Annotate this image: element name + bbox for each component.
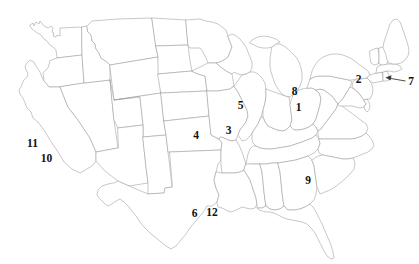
map-label-12[interactable]: 12 — [206, 207, 218, 219]
state-washington[interactable] — [30, 21, 82, 58]
state-arkansas[interactable] — [219, 137, 246, 173]
state-rhode-island[interactable] — [383, 71, 389, 81]
map-label-6[interactable]: 6 — [192, 208, 198, 220]
map-label-2[interactable]: 2 — [356, 74, 362, 86]
state-north-dakota[interactable] — [152, 18, 188, 46]
map-label-3[interactable]: 3 — [226, 125, 232, 137]
map-label-5[interactable]: 5 — [238, 100, 244, 112]
state-kansas[interactable] — [161, 91, 209, 121]
map-label-4[interactable]: 4 — [193, 130, 199, 142]
state-wyoming[interactable] — [110, 57, 161, 100]
us-states-map-figure: 1 2 3 4 5 6 7 8 9 10 11 12 — [0, 0, 419, 264]
map-label-11[interactable]: 11 — [27, 138, 38, 150]
state-florida[interactable] — [257, 204, 334, 259]
state-vermont[interactable] — [370, 48, 379, 65]
us-map-svg — [0, 0, 419, 264]
state-delaware[interactable] — [364, 99, 370, 112]
map-label-7[interactable]: 7 — [408, 76, 414, 88]
map-label-10[interactable]: 10 — [41, 153, 53, 165]
state-georgia[interactable] — [278, 156, 317, 210]
state-south-dakota[interactable] — [156, 45, 192, 74]
state-outlines — [19, 18, 409, 259]
map-label-8[interactable]: 8 — [292, 86, 298, 98]
state-south-carolina[interactable] — [312, 155, 355, 194]
map-label-9[interactable]: 9 — [305, 175, 311, 187]
map-label-1[interactable]: 1 — [296, 102, 302, 114]
state-minnesota[interactable] — [186, 19, 232, 63]
state-maine[interactable] — [383, 19, 409, 64]
state-oregon[interactable] — [43, 55, 84, 87]
state-massachusetts[interactable] — [376, 64, 402, 73]
